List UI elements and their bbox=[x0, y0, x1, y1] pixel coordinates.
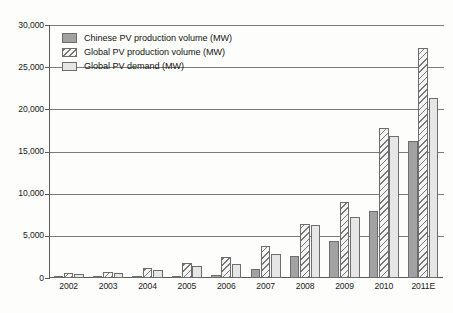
bar-2004-series-1 bbox=[143, 268, 153, 278]
bar-2011E-series-0 bbox=[408, 141, 418, 278]
bar-2002-series-0 bbox=[54, 276, 64, 278]
legend-swatch-icon-global-pv-production bbox=[62, 48, 77, 58]
bar-2010-series-2 bbox=[389, 136, 399, 278]
bar-chart: 05,00010,00015,00020,00025,00030,000 200… bbox=[0, 0, 453, 313]
x-tick-label-2011E: 2011E bbox=[404, 281, 443, 291]
bar-2003-series-1 bbox=[103, 272, 113, 278]
x-tick-label-2002: 2002 bbox=[49, 281, 88, 291]
x-tick-label-2007: 2007 bbox=[246, 281, 285, 291]
y-tick-label-5000: 5,000 bbox=[2, 230, 44, 240]
y-tick-label-10000: 10,000 bbox=[2, 188, 44, 198]
y-tick-0 bbox=[45, 278, 50, 279]
x-tick-label-2006: 2006 bbox=[207, 281, 246, 291]
y-tick-label-15000: 15,000 bbox=[2, 146, 44, 156]
legend-swatch-icon-chinese-pv-production bbox=[62, 33, 77, 43]
bar-2010-series-0 bbox=[369, 211, 379, 278]
bar-2007-series-1 bbox=[261, 246, 271, 278]
legend-label-global-pv-production: Global PV production volume (MW) bbox=[84, 47, 225, 57]
legend-label-chinese-pv-production: Chinese PV production volume (MW) bbox=[84, 33, 232, 43]
bar-2011E-series-1 bbox=[418, 48, 428, 278]
y-axis-labels: 05,00010,00015,00020,00025,00030,000 bbox=[0, 0, 44, 313]
bar-2010-series-1 bbox=[379, 128, 389, 278]
bar-2006-series-1 bbox=[221, 257, 231, 278]
x-tick-label-2008: 2008 bbox=[285, 281, 324, 291]
legend-swatch-icon-global-pv-demand bbox=[62, 62, 77, 72]
x-tick-label-2005: 2005 bbox=[167, 281, 206, 291]
legend-item-global-pv-demand: Global PV demand (MW) bbox=[62, 59, 244, 73]
bar-2009-series-2 bbox=[350, 217, 360, 278]
x-tick-label-2003: 2003 bbox=[88, 281, 127, 291]
x-axis-labels: 2002200320042005200620072008200920102011… bbox=[49, 281, 443, 305]
bar-2009-series-1 bbox=[340, 202, 350, 278]
bar-group-2008 bbox=[285, 25, 324, 278]
legend-item-global-pv-production: Global PV production volume (MW) bbox=[62, 45, 244, 59]
bar-2007-series-0 bbox=[251, 269, 261, 278]
y-tick-label-20000: 20,000 bbox=[2, 104, 44, 114]
y-tick-label-30000: 30,000 bbox=[2, 20, 44, 30]
bar-group-2010 bbox=[364, 25, 403, 278]
y-tick-label-25000: 25,000 bbox=[2, 62, 44, 72]
bar-group-2011E bbox=[404, 25, 443, 278]
bar-2002-series-2 bbox=[74, 274, 84, 278]
x-tick-label-2004: 2004 bbox=[128, 281, 167, 291]
legend-label-global-pv-demand: Global PV demand (MW) bbox=[84, 61, 184, 71]
bar-group-2007 bbox=[246, 25, 285, 278]
bar-2004-series-0 bbox=[132, 276, 142, 278]
bar-2007-series-2 bbox=[271, 254, 281, 278]
bar-2009-series-0 bbox=[329, 241, 339, 278]
bar-2005-series-2 bbox=[192, 266, 202, 278]
bar-2011E-series-2 bbox=[429, 98, 439, 278]
chart-legend: Chinese PV production volume (MW) Global… bbox=[62, 31, 244, 74]
bar-2006-series-2 bbox=[232, 264, 242, 278]
bar-2004-series-2 bbox=[153, 270, 163, 278]
x-tick-label-2010: 2010 bbox=[364, 281, 403, 291]
bar-2008-series-0 bbox=[290, 256, 300, 278]
bar-2008-series-2 bbox=[311, 225, 321, 278]
bar-2006-series-0 bbox=[211, 275, 221, 278]
bar-2003-series-2 bbox=[114, 273, 124, 278]
bar-2005-series-0 bbox=[172, 276, 182, 278]
bar-2005-series-1 bbox=[182, 263, 192, 278]
y-tick-label-0: 0 bbox=[2, 273, 44, 283]
legend-item-chinese-pv-production: Chinese PV production volume (MW) bbox=[62, 31, 244, 45]
x-tick-label-2009: 2009 bbox=[325, 281, 364, 291]
bar-2008-series-1 bbox=[300, 224, 310, 278]
bar-2002-series-1 bbox=[64, 273, 74, 278]
bar-2003-series-0 bbox=[93, 276, 103, 278]
bar-group-2009 bbox=[325, 25, 364, 278]
